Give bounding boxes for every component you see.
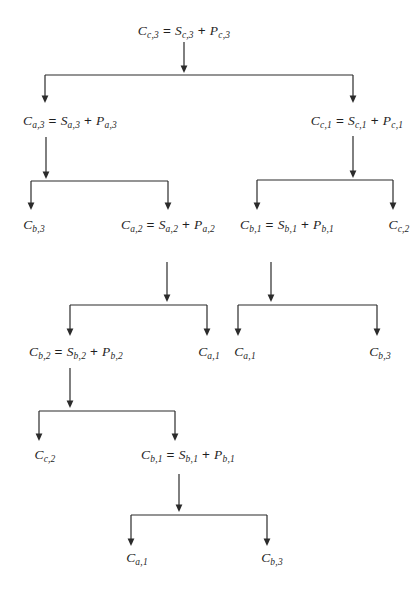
node-cb3-b: Cb,3 <box>369 344 391 360</box>
node-cc2-a: Cc,2 <box>388 217 409 233</box>
node-ca3: Ca,3 = Sa,3 + Pa,3 <box>23 113 117 129</box>
node-cb3-a: Cb,3 <box>23 217 45 233</box>
tree-connectors <box>0 0 416 590</box>
node-cc3: Cc,3 = Sc,3 + Pc,3 <box>138 23 230 39</box>
node-cb1-b: Cb,1 = Sb,1 + Pb,1 <box>141 447 235 463</box>
node-cb2: Cb,2 = Sb,2 + Pb,2 <box>29 344 123 360</box>
node-cc2-b: Cc,2 <box>34 447 55 463</box>
node-ca1-b: Ca,1 <box>234 344 256 360</box>
node-cc1: Cc,1 = Sc,1 + Pc,1 <box>311 113 403 129</box>
node-ca1-c: Ca,1 <box>126 550 148 566</box>
node-cb3-c: Cb,3 <box>261 550 283 566</box>
node-ca2: Ca,2 = Sa,2 + Pa,2 <box>121 217 215 233</box>
dependency-tree-diagram: Cc,3 = Sc,3 + Pc,3Ca,3 = Sa,3 + Pa,3Cc,1… <box>0 0 416 590</box>
node-ca1-a: Ca,1 <box>198 344 220 360</box>
node-cb1-a: Cb,1 = Sb,1 + Pb,1 <box>240 217 334 233</box>
